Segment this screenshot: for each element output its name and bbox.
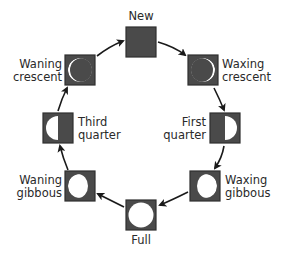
phase-third-quarter [43, 113, 73, 143]
phase-waning-gibbous [65, 171, 95, 201]
arrow-third-quarter-to-waning-crescent [58, 88, 67, 111]
arrow-new-to-waxing-crescent [158, 42, 185, 55]
arrow-waning-gibbous-to-third-quarter [60, 146, 68, 170]
arrow-waning-crescent-to-new [97, 41, 123, 56]
label-waning-gibbous: Waning gibbous [4, 174, 62, 200]
label-waxing-gibbous: Waxing gibbous [225, 174, 270, 200]
label-new: New [121, 10, 161, 23]
label-full: Full [121, 234, 161, 247]
arrow-first-quarter-to-waxing-gibbous [215, 146, 224, 168]
phase-new [126, 27, 156, 57]
phase-first-quarter [210, 113, 240, 143]
diagram-canvas [0, 0, 282, 255]
arrow-full-to-waning-gibbous [98, 194, 124, 207]
arrow-waxing-crescent-to-first-quarter [214, 88, 224, 110]
label-first-quarter: First quarter [150, 116, 206, 142]
phase-waxing-crescent [188, 55, 218, 85]
moon-phase-cycle-diagram: New Waxing crescent First quarter Waxing… [0, 0, 282, 255]
label-waning-crescent: Waning crescent [2, 58, 62, 84]
label-waxing-crescent: Waxing crescent [222, 58, 271, 84]
label-third-quarter: Third quarter [78, 116, 121, 142]
phase-waxing-gibbous [190, 171, 220, 201]
phase-full [126, 200, 156, 230]
arrow-waxing-gibbous-to-full [160, 192, 188, 205]
phase-waning-crescent [65, 55, 95, 85]
